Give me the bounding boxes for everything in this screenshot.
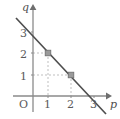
- demand-curve-figure: 1 2 3 1 2 3 O p q: [0, 0, 120, 119]
- x-tick-label-3: 3: [90, 99, 97, 110]
- axis-ticks: [31, 32, 94, 98]
- y-axis-label: q: [22, 2, 29, 13]
- y-tick-label-2: 2: [20, 49, 27, 60]
- y-axis-arrowhead: [30, 4, 37, 10]
- data-point-1-2: [45, 50, 51, 56]
- y-tick-label-1: 1: [20, 71, 27, 82]
- x-tick-label-2: 2: [67, 99, 74, 110]
- guide-lines: [33, 53, 71, 96]
- origin-label: O: [19, 99, 28, 110]
- data-point-2-1: [68, 72, 74, 78]
- x-axis-label: p: [110, 99, 117, 110]
- plot-canvas: [0, 0, 120, 119]
- y-tick-label-3: 3: [20, 28, 27, 39]
- x-tick-label-1: 1: [44, 99, 51, 110]
